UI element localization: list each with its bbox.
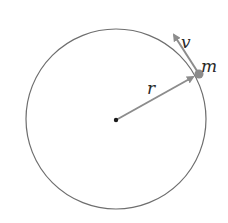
diagram-canvas (0, 0, 228, 223)
mass-label: m (201, 58, 217, 75)
velocity-label: v (181, 34, 191, 51)
radius-label: r (147, 80, 155, 97)
circular-motion-diagram: v m r (0, 0, 228, 223)
center-point (114, 118, 118, 122)
